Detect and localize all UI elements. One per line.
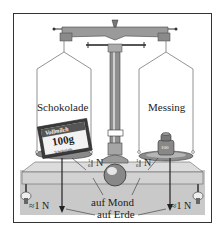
moon-fraction-right: 16 — [136, 158, 139, 168]
caption-earth: auf Erde — [97, 208, 135, 220]
column-base-ball — [104, 164, 126, 186]
moon-force-left-unit: N — [96, 157, 103, 168]
balance-beam — [62, 27, 168, 40]
brass-weight-icon — [158, 133, 174, 156]
moon-force-right-unit: N — [144, 157, 151, 168]
pointer-knob — [112, 20, 118, 27]
scale-nameplate — [108, 130, 123, 136]
moon-fraction-left: 16 — [88, 158, 91, 168]
earth-force-left: ≈1 N — [29, 200, 49, 211]
earth-force-right: ≈1 N — [171, 200, 191, 211]
brass-weight-mark: 100 — [161, 145, 169, 150]
caption-moon: auf Mond — [91, 196, 134, 208]
left-pan-label: Schokolade — [37, 101, 88, 113]
right-pan-label: Messing — [148, 101, 185, 113]
